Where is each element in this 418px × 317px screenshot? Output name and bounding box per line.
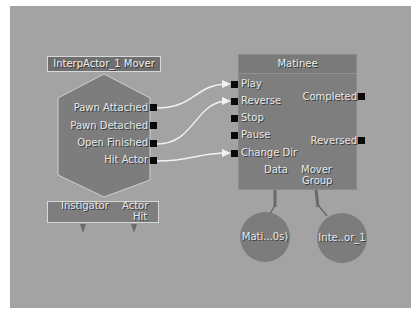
output-hit-actor: Hit Actor — [104, 154, 148, 165]
pin-pawn-detached[interactable] — [150, 122, 157, 129]
var-link-wire — [318, 205, 327, 216]
arrow-icon — [222, 80, 231, 88]
output-pawn-detached: Pawn Detached — [70, 120, 148, 131]
var-actor-hit-2: Hit — [133, 211, 147, 222]
input-pause: Pause — [241, 129, 270, 140]
variable-node-label: Inte..or_1 — [302, 232, 382, 243]
matinee-title: Matinee — [239, 55, 356, 74]
var-mover-2: Group — [302, 175, 332, 186]
pin-stop[interactable] — [231, 115, 238, 122]
wire-pawn-attached-to-play — [157, 84, 228, 108]
variable-connector-icon — [80, 224, 86, 233]
pin-open-finished[interactable] — [150, 140, 157, 147]
variable-node-interpactor[interactable]: Inte..or_1 — [317, 213, 367, 263]
pin-completed[interactable] — [358, 93, 365, 100]
variable-node-label: Mati...0s) — [225, 231, 305, 242]
variable-node-matinee-data[interactable]: Mati...0s) — [240, 212, 290, 262]
pin-hit-actor[interactable] — [150, 157, 157, 164]
input-change-dir: Change Dir — [241, 147, 297, 158]
var-actor-hit-1: Actor — [122, 200, 148, 211]
pin-change-dir[interactable] — [231, 150, 238, 157]
output-reversed: Reversed — [310, 135, 357, 146]
output-open-finished: Open Finished — [77, 137, 148, 148]
event-node-title[interactable]: InterpActor_1 Mover — [47, 56, 161, 72]
event-node-title-text: InterpActor_1 Mover — [53, 58, 155, 69]
pin-play[interactable] — [231, 81, 238, 88]
pin-reverse[interactable] — [231, 98, 238, 105]
input-stop: Stop — [241, 112, 264, 123]
pin-reversed[interactable] — [358, 137, 365, 144]
var-instigator: Instigator — [61, 200, 109, 211]
arrow-icon — [222, 149, 231, 157]
input-play: Play — [241, 78, 262, 89]
output-completed: Completed — [302, 91, 357, 102]
pin-pawn-attached[interactable] — [150, 104, 157, 111]
wire-hit-actor-to-change-dir — [157, 153, 228, 161]
var-data: Data — [264, 164, 288, 175]
pin-pause[interactable] — [231, 132, 238, 139]
var-mover-1: Mover — [301, 164, 332, 175]
input-reverse: Reverse — [241, 95, 281, 106]
event-node-hexagon — [58, 74, 150, 197]
arrow-icon — [222, 97, 231, 105]
variable-connector-icon — [316, 190, 318, 207]
output-pawn-attached: Pawn Attached — [74, 102, 148, 113]
variable-connector-icon — [131, 224, 137, 233]
